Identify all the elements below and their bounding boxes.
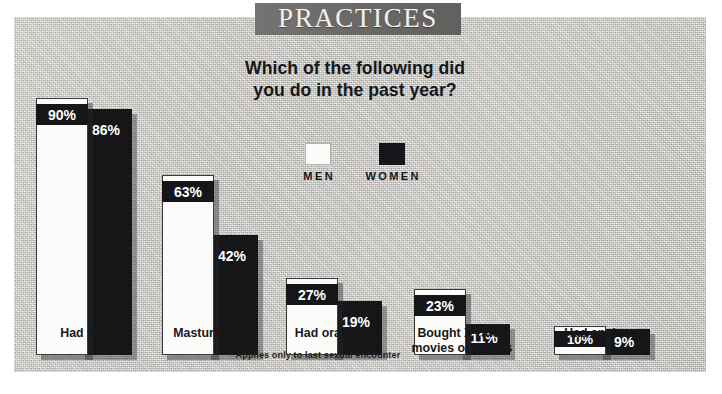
category-label-line: Bought X-rated [396, 325, 529, 340]
chart-subtitle: Which of the following did you do in the… [216, 57, 495, 101]
chart-subtitle-line1: Which of the following did [245, 57, 465, 78]
chart-legend: MEN WOMEN [288, 143, 448, 201]
legend-label-men: MEN [288, 170, 348, 182]
chart-title: PRACTICES [255, 5, 461, 32]
chart-figure: PRACTICES Which of the following did you… [0, 0, 722, 394]
legend-label-women: WOMEN [362, 170, 422, 182]
category-label: Had anal sex [536, 325, 669, 340]
title-banner: PRACTICES [255, 3, 461, 35]
legend-item-women: WOMEN [362, 143, 422, 182]
category-label: Bought X-ratedmovies or videos [396, 325, 529, 355]
category-label-line: Had sex [18, 325, 151, 340]
legend-item-men: MEN [288, 143, 348, 182]
category-label-line: movies or videos [396, 340, 529, 355]
legend-swatch-women [379, 143, 405, 165]
chart-subtitle-line2: you do in the past year? [216, 79, 495, 101]
category-label-line: Had oral sex* [268, 325, 401, 340]
category-label: Had oral sex* [268, 325, 401, 340]
category-label-line: Masturbated [144, 325, 277, 340]
category-label-line: Had anal sex [536, 325, 669, 340]
category-label: Masturbated [144, 325, 277, 340]
legend-swatch-men [305, 143, 331, 165]
category-label: Had sex [18, 325, 151, 340]
